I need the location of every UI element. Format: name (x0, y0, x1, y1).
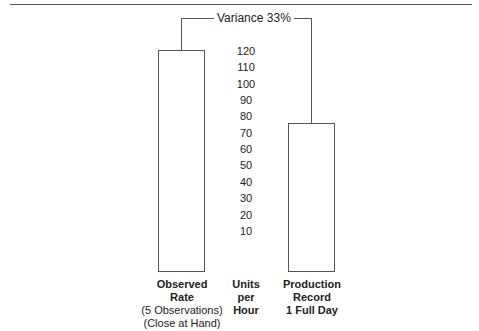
label-line: Observed (126, 278, 238, 291)
label-production-record: Production Record 1 Full Day (271, 278, 353, 317)
label-observed-rate: Observed Rate (5 Observations) (Close at… (126, 278, 238, 330)
label-line: per (226, 291, 266, 304)
y-tick-label: 20 (226, 209, 266, 221)
label-y-axis: Units per Hour (226, 278, 266, 317)
y-tick-label: 80 (226, 110, 266, 122)
y-tick-label: 60 (226, 143, 266, 155)
y-tick-label: 110 (226, 61, 266, 73)
label-line: Hour (226, 304, 266, 317)
y-tick-label: 100 (226, 78, 266, 90)
y-tick-label: 90 (226, 94, 266, 106)
label-line: Record (271, 291, 353, 304)
y-tick-label: 10 (226, 225, 266, 237)
label-line: (5 Observations) (126, 304, 238, 317)
y-tick-label: 30 (226, 192, 266, 204)
y-tick-label: 70 (226, 127, 266, 139)
label-line: (Close at Hand) (126, 317, 238, 330)
y-tick-label: 40 (226, 176, 266, 188)
label-line: Production (271, 278, 353, 291)
bar-production-record (288, 123, 335, 272)
y-tick-label: 50 (226, 159, 266, 171)
label-line: Units (226, 278, 266, 291)
label-line: Rate (126, 291, 238, 304)
label-line: 1 Full Day (271, 304, 353, 317)
top-rule (10, 4, 472, 5)
bracket-left (181, 18, 182, 50)
bracket-right (311, 18, 312, 123)
bar-observed-rate (158, 50, 205, 272)
y-tick-label: 120 (226, 45, 266, 57)
variance-label: Variance 33% (214, 11, 294, 25)
